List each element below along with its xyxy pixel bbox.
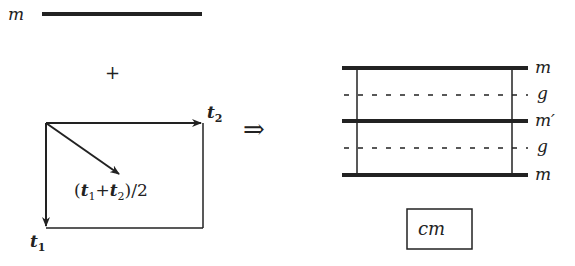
label-m-bottom: m (535, 164, 551, 184)
label-m-top: m (535, 57, 551, 77)
symmetry-pattern (342, 68, 528, 175)
label-g-2: g (537, 136, 548, 156)
diagonal-arrow (46, 123, 119, 174)
diagonal-label: (t1+t2)/2 (74, 180, 148, 203)
implies-arrow-icon: ⇒ (243, 114, 265, 144)
mirror-label-m: m (8, 4, 24, 24)
lattice-cell (46, 123, 203, 228)
diagram-canvas: m + t2 t1 (t1+t2)/2 ⇒ m g m′ g m cm (0, 0, 575, 266)
plus-sign: + (105, 62, 120, 83)
t1-label: t1 (30, 231, 46, 254)
plane-group-label: cm (418, 218, 445, 239)
label-m-prime: m′ (535, 110, 555, 130)
t2-label: t2 (207, 102, 223, 125)
label-g-1: g (537, 83, 548, 103)
